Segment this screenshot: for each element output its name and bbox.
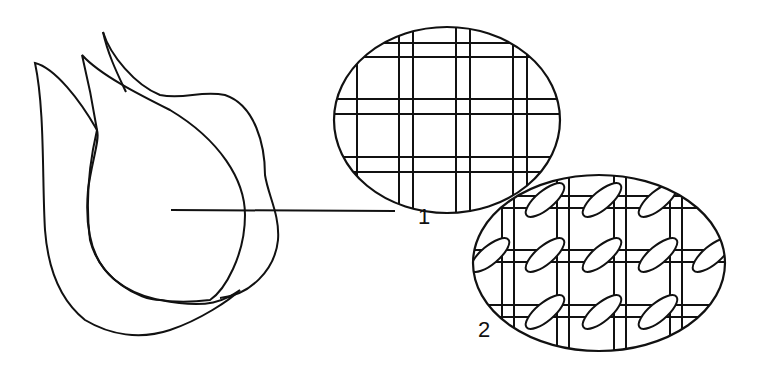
diagram-svg [0, 0, 757, 371]
leader-line [171, 210, 395, 211]
grid-weave [330, 20, 565, 215]
petal-group [35, 32, 278, 335]
middle-petal [82, 55, 245, 302]
label-2: 2 [478, 319, 490, 341]
label-1: 1 [418, 206, 430, 228]
front-petal [103, 32, 278, 298]
diagram-canvas: 1 2 [0, 0, 757, 371]
